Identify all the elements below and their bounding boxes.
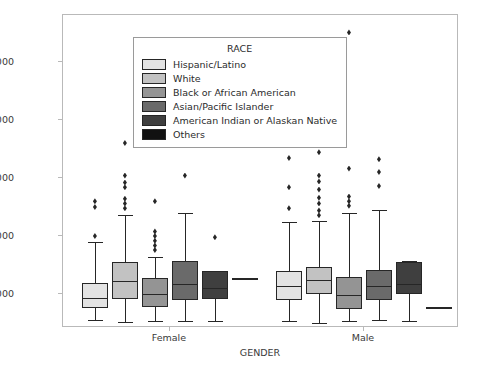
cap-lower xyxy=(178,321,193,322)
cap-upper xyxy=(342,213,357,214)
whisker-lower xyxy=(349,309,350,321)
outlier-point xyxy=(153,228,157,234)
legend-item: Black or African American xyxy=(142,85,337,99)
whisker-upper xyxy=(349,213,350,277)
whisker-lower xyxy=(319,294,320,323)
median-line xyxy=(142,294,168,295)
median-line xyxy=(112,281,138,282)
box xyxy=(142,278,168,307)
box-degenerate xyxy=(426,307,452,309)
boxplot-figure: BASE_SALARY 5000010000015000020000025000… xyxy=(0,0,480,373)
median-line xyxy=(82,298,108,299)
median-line xyxy=(336,295,362,296)
cap-upper xyxy=(88,242,103,243)
median-line xyxy=(202,288,228,289)
whisker-lower xyxy=(409,294,410,321)
box xyxy=(82,283,108,309)
median-line xyxy=(172,284,198,285)
x-tick-label: Male xyxy=(352,332,375,343)
outlier-point xyxy=(287,155,291,161)
cap-upper xyxy=(282,222,297,223)
y-tick-label: 50000 xyxy=(0,288,14,299)
cap-lower xyxy=(282,321,297,322)
y-tick-label: 100000 xyxy=(0,230,14,241)
median-line xyxy=(306,280,332,281)
outlier-point xyxy=(317,178,321,184)
cap-upper xyxy=(118,215,133,216)
cap-lower xyxy=(402,321,417,322)
whisker-upper xyxy=(319,221,320,268)
cap-lower xyxy=(208,321,223,322)
cap-lower xyxy=(88,320,103,321)
cap-lower xyxy=(148,321,163,322)
x-tick-mark xyxy=(169,327,170,331)
plot-frame: RACE Hispanic/LatinoWhiteBlack or Africa… xyxy=(62,14,458,327)
x-tick-mark xyxy=(363,327,364,331)
cap-upper xyxy=(312,221,327,222)
outlier-point xyxy=(123,173,127,179)
outlier-point xyxy=(377,169,381,175)
box xyxy=(396,262,422,295)
whisker-upper xyxy=(185,213,186,261)
cap-upper xyxy=(178,213,193,214)
legend-swatch xyxy=(142,101,166,112)
x-axis-label: GENDER xyxy=(240,347,280,358)
whisker-lower xyxy=(125,299,126,322)
outlier-point xyxy=(317,187,321,193)
outlier-point xyxy=(317,173,321,179)
y-tick-label: 200000 xyxy=(0,113,14,124)
outlier-point xyxy=(183,173,187,179)
whisker-lower xyxy=(215,299,216,321)
legend-swatch xyxy=(142,73,166,84)
outlier-point xyxy=(287,184,291,190)
cap-lower xyxy=(312,323,327,324)
outlier-point xyxy=(317,200,321,206)
whisker-upper xyxy=(125,215,126,262)
legend-entries: Hispanic/LatinoWhiteBlack or African Ame… xyxy=(142,57,337,141)
outlier-point xyxy=(347,166,351,172)
y-tick-label: 150000 xyxy=(0,171,14,182)
cap-upper xyxy=(148,257,163,258)
cap-lower xyxy=(342,321,357,322)
outlier-point xyxy=(93,198,97,204)
legend-label: Others xyxy=(173,129,205,140)
cap-lower xyxy=(372,320,387,321)
median-line xyxy=(366,286,392,287)
legend-swatch xyxy=(142,87,166,98)
legend-item: American Indian or Alaskan Native xyxy=(142,113,337,127)
whisker-upper xyxy=(95,242,96,283)
legend-label: Hispanic/Latino xyxy=(173,59,246,70)
whisker-lower xyxy=(185,300,186,321)
legend-swatch xyxy=(142,59,166,70)
whisker-upper xyxy=(289,222,290,271)
outlier-point xyxy=(123,140,127,146)
outlier-point xyxy=(377,183,381,189)
y-tick-label: 250000 xyxy=(0,55,14,66)
outlier-point xyxy=(347,194,351,200)
whisker-lower xyxy=(95,308,96,320)
outlier-point xyxy=(287,205,291,211)
whisker-lower xyxy=(379,300,380,320)
outlier-point xyxy=(317,195,321,201)
whisker-upper xyxy=(379,210,380,269)
legend-item: Asian/Pacific Islander xyxy=(142,99,337,113)
outlier-point xyxy=(123,180,127,186)
outlier-point xyxy=(347,29,351,35)
legend-item: Hispanic/Latino xyxy=(142,57,337,71)
outlier-point xyxy=(93,204,97,210)
legend-label: White xyxy=(173,73,201,84)
box xyxy=(366,270,392,300)
outlier-point xyxy=(377,156,381,162)
whisker-lower xyxy=(289,300,290,321)
cap-upper xyxy=(372,210,387,211)
legend-title: RACE xyxy=(142,43,337,54)
legend-label: American Indian or Alaskan Native xyxy=(173,115,337,126)
whisker-lower xyxy=(155,307,156,321)
outlier-point xyxy=(317,207,321,213)
legend-swatch xyxy=(142,115,166,126)
box xyxy=(112,262,138,299)
legend-item: Others xyxy=(142,127,337,141)
box xyxy=(172,261,198,301)
box xyxy=(202,271,228,299)
outlier-point xyxy=(93,233,97,239)
